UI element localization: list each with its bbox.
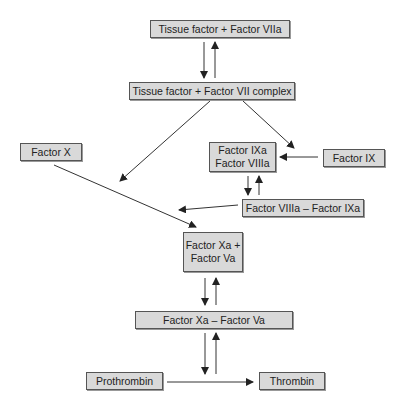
node-label: Tissue factor + Factor VII complex — [132, 85, 291, 98]
node-label: Prothrombin — [96, 375, 153, 388]
node-xa-va-complex: Factor Xa – Factor Va — [135, 311, 293, 329]
node-tf-viia: Tissue factor + Factor VIIa — [150, 20, 290, 38]
node-label-line2: Factor Va — [191, 252, 236, 265]
node-factor-ix: Factor IX — [323, 149, 385, 167]
arrow-x-to-xa — [54, 165, 196, 227]
node-factor-ixa-viiia: Factor IXa Factor VIIIa — [209, 142, 276, 172]
node-label: Tissue factor + Factor VIIa — [158, 23, 281, 36]
node-xa-va: Factor Xa + Factor Va — [183, 232, 243, 272]
node-label: Factor Xa – Factor Va — [163, 314, 265, 327]
node-label: Factor VIIIa – Factor IXa — [246, 202, 360, 215]
node-label-line1: Factor IXa — [218, 144, 266, 157]
node-thrombin: Thrombin — [259, 372, 325, 390]
node-label: Thrombin — [270, 375, 314, 388]
node-label-line2: Factor VIIIa — [215, 157, 269, 170]
arrow-complex-to-x — [120, 101, 210, 181]
arrow-complex-to-ixa — [243, 101, 294, 148]
node-label: Factor X — [31, 146, 71, 159]
node-label: Factor IX — [333, 152, 376, 165]
node-factor-x: Factor X — [20, 143, 82, 161]
node-tf-vii-complex: Tissue factor + Factor VII complex — [129, 82, 295, 100]
node-viiia-ixa: Factor VIIIa – Factor IXa — [242, 199, 364, 217]
arrow-viiia-to-x — [179, 205, 238, 210]
node-label-line1: Factor Xa + — [186, 239, 241, 252]
node-prothrombin: Prothrombin — [86, 372, 163, 390]
